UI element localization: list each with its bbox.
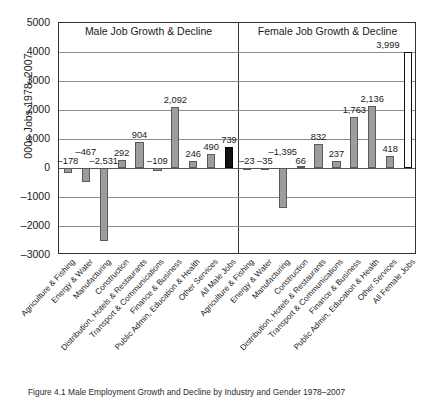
zero-line bbox=[59, 168, 415, 169]
bar bbox=[261, 168, 269, 170]
bar bbox=[118, 160, 126, 168]
bar bbox=[100, 168, 108, 241]
bar bbox=[279, 168, 287, 208]
bar bbox=[386, 156, 394, 168]
y-tick-label: –1000 bbox=[12, 191, 50, 201]
bar bbox=[297, 166, 305, 168]
bar bbox=[332, 161, 340, 168]
bar bbox=[64, 168, 72, 173]
x-axis-category-labels: Agriculture & FishingEnergy & WaterManuf… bbox=[0, 0, 436, 146]
y-tick-label: –3000 bbox=[12, 249, 50, 259]
bar bbox=[189, 161, 197, 168]
gridline bbox=[59, 226, 415, 227]
figure-container: 000s Jobs 1978–2007 50004000300020001000… bbox=[0, 0, 436, 400]
gridline bbox=[59, 197, 415, 198]
bar bbox=[82, 168, 90, 182]
bar bbox=[207, 154, 215, 168]
bar bbox=[153, 168, 161, 171]
figure-caption: Figure 4.1 Male Employment Growth and De… bbox=[28, 387, 345, 397]
bar bbox=[243, 168, 251, 170]
y-tick-label: –2000 bbox=[12, 220, 50, 230]
